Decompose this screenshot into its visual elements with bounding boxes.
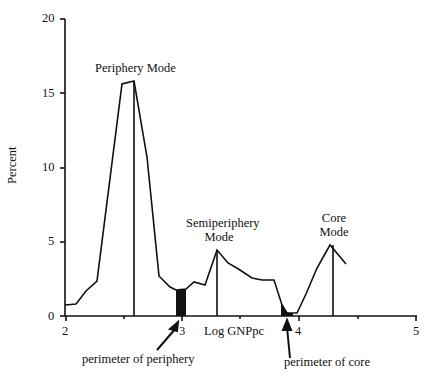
perimeter-periphery-label: perimeter of periphery <box>82 353 194 367</box>
arrow-periphery-icon <box>157 322 178 350</box>
semiperiphery-label-line1: Semiperiphery <box>186 217 252 231</box>
x-axis <box>65 316 417 321</box>
y-tick-0: 0 <box>48 310 54 323</box>
core-label-line2: Mode <box>318 226 350 240</box>
x-tick-4: 4 <box>295 325 301 338</box>
x-tick-3: 3 <box>179 325 185 338</box>
x-axis-label: Log GNPpc <box>204 325 264 339</box>
y-tick-20: 20 <box>42 12 55 25</box>
y-axis <box>60 19 65 316</box>
y-tick-15: 15 <box>42 87 55 100</box>
semiperiphery-label-line2: Mode <box>186 231 252 245</box>
y-tick-5: 5 <box>48 235 54 248</box>
distribution-line <box>65 81 346 313</box>
periphery-mode-label: Periphery Mode <box>95 62 176 76</box>
x-tick-2: 2 <box>62 325 68 338</box>
y-tick-10: 10 <box>42 161 55 174</box>
core-mode-label: Core Mode <box>318 212 350 240</box>
core-label-line1: Core <box>318 212 350 226</box>
perimeter-core-label: perimeter of core <box>284 356 370 370</box>
y-axis-label: Percent <box>6 147 20 184</box>
perimeter-periphery-region <box>176 289 186 316</box>
semiperiphery-mode-label: Semiperiphery Mode <box>186 217 252 245</box>
x-tick-5: 5 <box>413 325 419 338</box>
arrow-core-icon <box>283 320 291 358</box>
